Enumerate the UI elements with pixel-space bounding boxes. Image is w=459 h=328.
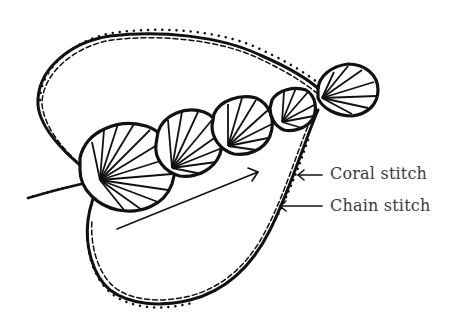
shell-motif-5 — [318, 64, 378, 116]
chain-stitch-label: Chain stitch — [330, 196, 430, 215]
shell-motif-4 — [270, 88, 316, 131]
shell-motif-3 — [212, 97, 272, 155]
coral-stitch-label: Coral stitch — [330, 164, 427, 183]
stitch-diagram: Coral stitch Chain stitch — [0, 0, 459, 328]
